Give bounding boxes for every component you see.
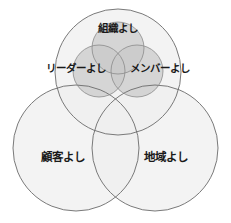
label-leader: リーダーよし [46,62,106,74]
venn-diagram-canvas: 組織よし リーダーよし メンバーよし 顧客よし 地域よし [0,0,231,223]
label-organization: 組織よし [98,22,138,34]
venn-diagram: 組織よし リーダーよし メンバーよし 顧客よし 地域よし [0,0,231,223]
label-member: メンバーよし [130,62,190,74]
label-region: 地域よし [144,150,188,164]
label-customer: 顧客よし [41,150,85,164]
outer-circle-region-fill [92,85,218,211]
